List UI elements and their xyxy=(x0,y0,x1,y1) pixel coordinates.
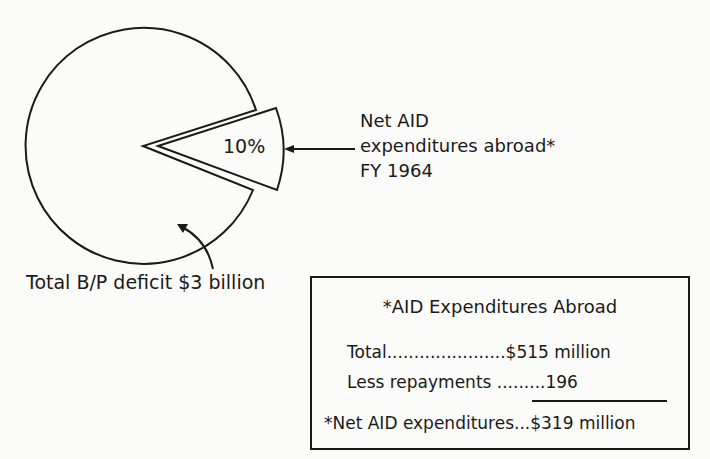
callout-line: expenditures abroad* xyxy=(360,133,555,158)
footnote-row-repayments: Less repayments .........196 xyxy=(347,372,578,392)
footnote-title: *AID Expenditures Abroad xyxy=(312,296,688,317)
sum-rule xyxy=(532,400,667,402)
footnote-box: *AID Expenditures Abroad Total..........… xyxy=(310,276,690,450)
pie-slice-remainder xyxy=(26,28,256,264)
callout-line: Net AID xyxy=(360,108,555,133)
total-arrow xyxy=(182,227,213,269)
slice-percent-label: 10% xyxy=(223,135,265,157)
arrowhead-icon xyxy=(284,145,294,153)
footnote-row-total: Total......................$515 million xyxy=(347,342,611,362)
slice-callout: Net AID expenditures abroad* FY 1964 xyxy=(360,108,555,183)
footnote-row-net: *Net AID expenditures...$319 million xyxy=(324,413,636,433)
total-deficit-label: Total B/P deficit $3 billion xyxy=(26,271,265,293)
callout-line: FY 1964 xyxy=(360,158,555,183)
